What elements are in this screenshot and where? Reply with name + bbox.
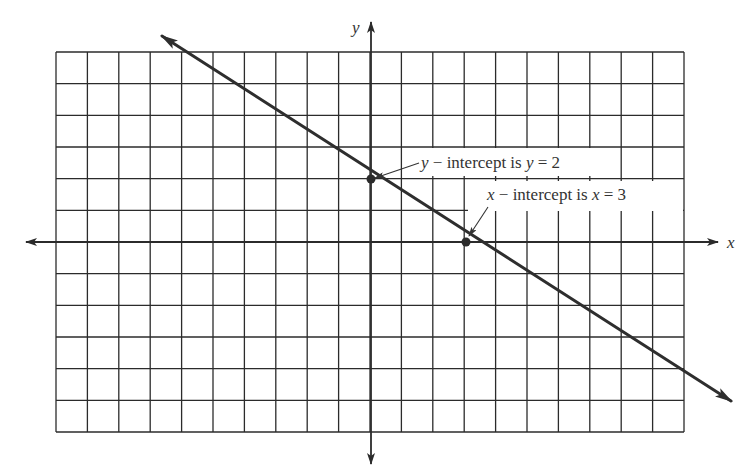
- y-intercept-label: y − intercept is y = 2: [419, 153, 560, 172]
- y-intercept-point: [367, 175, 376, 184]
- coordinate-plane: x y y − intercept is y = 2 x − intercept…: [0, 0, 744, 469]
- y-intercept-pointer: [375, 163, 419, 178]
- x-intercept-point: [462, 238, 471, 247]
- x-axis-label: x: [726, 233, 735, 252]
- y-axis-label: y: [350, 18, 360, 37]
- graph-line: [162, 36, 731, 401]
- x-intercept-pointer: [469, 207, 488, 236]
- x-intercept-label: x − intercept is x = 3: [486, 185, 626, 204]
